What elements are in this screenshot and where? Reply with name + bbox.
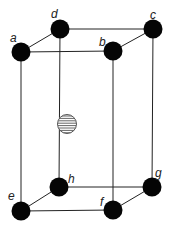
edge-c-g [152, 29, 153, 187]
atom-e [12, 202, 31, 221]
edge-a-b [21, 51, 113, 52]
atom-b [104, 42, 123, 61]
unit-cell-diagram: abcdefgh [0, 0, 171, 232]
corner-atoms [12, 20, 163, 221]
cell-edges [21, 29, 153, 211]
label-c: c [150, 8, 156, 22]
label-h: h [68, 172, 75, 186]
label-g: g [155, 166, 162, 180]
atom-h [50, 178, 69, 197]
atom-g [143, 178, 162, 197]
atom-f [104, 201, 123, 220]
edge-e-f [21, 210, 113, 211]
atom-c [144, 20, 163, 39]
body-center-atom [58, 115, 77, 134]
label-a: a [10, 31, 17, 45]
edge-d-h [59, 29, 60, 187]
label-b: b [99, 35, 106, 49]
atom-d [51, 20, 70, 39]
label-e: e [8, 189, 15, 203]
label-d: d [51, 7, 58, 21]
atom-a [12, 43, 31, 62]
